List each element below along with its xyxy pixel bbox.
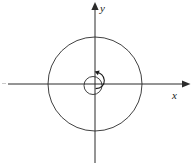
axes-group (2, 2, 191, 163)
inner-circle-curve (84, 77, 102, 95)
y-axis-label: y (99, 2, 105, 14)
x-axis-arrow-right-icon (182, 80, 191, 87)
polar-curve-figure: x y (0, 0, 194, 163)
figure-canvas: x y (0, 0, 194, 163)
y-axis-arrow-up-icon (91, 2, 98, 10)
x-axis-label: x (171, 89, 177, 101)
